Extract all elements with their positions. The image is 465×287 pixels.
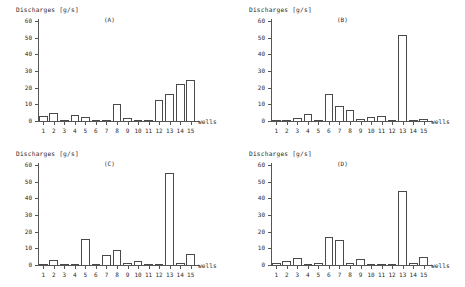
- y-axis-tick: 50: [268, 38, 272, 39]
- y-axis-tick-label: 10: [25, 244, 32, 251]
- bar: [81, 239, 90, 265]
- x-axis-tick-label: 10: [367, 127, 374, 134]
- bar: [377, 116, 386, 121]
- x-axis-line: [271, 265, 433, 266]
- y-axis-tick-label: 40: [25, 194, 32, 201]
- x-axis-tick-label: 12: [156, 127, 163, 134]
- y-axis-tick: 30: [35, 215, 39, 216]
- x-axis-tick: [308, 121, 309, 125]
- x-axis-line: [38, 121, 200, 122]
- x-axis-tick: [403, 121, 404, 125]
- x-axis-tick: [170, 121, 171, 125]
- x-axis-tick-label: 10: [367, 271, 374, 278]
- bar: [377, 264, 386, 265]
- panel-a: Discharges [g/s] (A) wells 0102030405060…: [0, 0, 232, 143]
- x-axis-tick: [180, 121, 181, 125]
- bar: [123, 263, 132, 266]
- x-axis-tick: [138, 121, 139, 125]
- bar: [293, 258, 302, 265]
- x-axis-tick-label: 3: [296, 271, 300, 278]
- bar: [325, 237, 334, 265]
- bar: [314, 263, 323, 266]
- x-axis-tick-label: 11: [145, 271, 152, 278]
- x-axis-tick: [361, 121, 362, 125]
- bar: [398, 191, 407, 265]
- x-axis-tick-label: 1: [41, 271, 45, 278]
- x-axis-tick-label: 7: [338, 271, 342, 278]
- y-axis-tick: 50: [35, 182, 39, 183]
- x-axis-tick-label: 12: [389, 271, 396, 278]
- bar: [304, 114, 313, 122]
- x-axis-tick-label: 4: [306, 127, 310, 134]
- y-axis-tick: 10: [35, 248, 39, 249]
- x-axis-tick-label: 15: [187, 127, 194, 134]
- x-axis-tick: [106, 121, 107, 125]
- x-axis-tick-label: 10: [134, 271, 141, 278]
- x-axis-tick-label: 5: [317, 271, 321, 278]
- x-axis-tick-label: 11: [145, 127, 152, 134]
- bar: [335, 240, 344, 265]
- x-axis-tick: [75, 265, 76, 269]
- x-axis-tick-label: 4: [73, 127, 77, 134]
- x-axis-tick: [128, 121, 129, 125]
- bar: [102, 120, 111, 121]
- y-axis-tick-label: 10: [258, 244, 265, 251]
- bar: [314, 120, 323, 121]
- y-axis-tick-label: 60: [25, 17, 32, 24]
- bar: [165, 94, 174, 121]
- plot-area: 0102030405060123456789101112131415: [271, 22, 429, 122]
- y-axis-tick: 30: [268, 71, 272, 72]
- y-axis-tick: 10: [35, 104, 39, 105]
- y-axis-tick: 60: [35, 165, 39, 166]
- bar: [155, 100, 164, 121]
- x-axis-tick-label: 13: [166, 271, 173, 278]
- y-axis-tick-label: 50: [25, 178, 32, 185]
- x-axis-tick-label: 7: [338, 127, 342, 134]
- x-axis-tick: [371, 121, 372, 125]
- x-axis-tick-label: 14: [410, 127, 417, 134]
- x-axis-tick-label: 9: [126, 271, 130, 278]
- x-axis-tick: [96, 121, 97, 125]
- bar: [39, 264, 48, 265]
- bar: [134, 261, 143, 265]
- x-axis-tick-label: 6: [94, 271, 98, 278]
- bar: [388, 264, 397, 265]
- y-axis-tick-label: 60: [25, 161, 32, 168]
- y-axis-tick: 50: [35, 38, 39, 39]
- x-axis-tick: [329, 265, 330, 269]
- x-axis-tick-label: 14: [177, 271, 184, 278]
- y-axis-tick-label: 0: [28, 261, 32, 268]
- bar: [304, 264, 313, 265]
- y-axis-tick: 0: [35, 121, 39, 122]
- x-axis-tick: [329, 121, 330, 125]
- x-axis-tick: [308, 265, 309, 269]
- bar: [346, 110, 355, 121]
- y-axis-tick: 30: [35, 71, 39, 72]
- y-axis-tick-label: 60: [258, 161, 265, 168]
- y-axis-label: Discharges [g/s]: [249, 150, 312, 157]
- bar: [272, 120, 281, 121]
- x-axis-tick-label: 13: [166, 127, 173, 134]
- x-axis-tick-label: 3: [63, 271, 67, 278]
- y-axis-tick-label: 40: [258, 194, 265, 201]
- y-axis-tick-label: 50: [258, 34, 265, 41]
- x-axis-tick-label: 2: [52, 271, 56, 278]
- x-axis-tick: [392, 121, 393, 125]
- y-axis-tick-label: 40: [25, 50, 32, 57]
- bar: [419, 257, 428, 265]
- x-axis-tick: [297, 265, 298, 269]
- x-axis-tick-label: 7: [105, 127, 109, 134]
- y-axis-tick: 40: [268, 54, 272, 55]
- x-axis-tick: [350, 121, 351, 125]
- x-axis-tick-label: 9: [359, 271, 363, 278]
- x-axis-tick-label: 8: [348, 271, 352, 278]
- x-axis-tick-label: 2: [52, 127, 56, 134]
- x-axis-tick-label: 2: [285, 127, 289, 134]
- x-axis-tick: [297, 121, 298, 125]
- x-axis-tick-label: 1: [274, 127, 278, 134]
- x-axis-tick-label: 11: [378, 271, 385, 278]
- y-axis-tick: 40: [268, 198, 272, 199]
- y-axis-tick-label: 30: [258, 211, 265, 218]
- y-axis-label: Discharges [g/s]: [16, 6, 79, 13]
- x-axis-tick-label: 13: [399, 271, 406, 278]
